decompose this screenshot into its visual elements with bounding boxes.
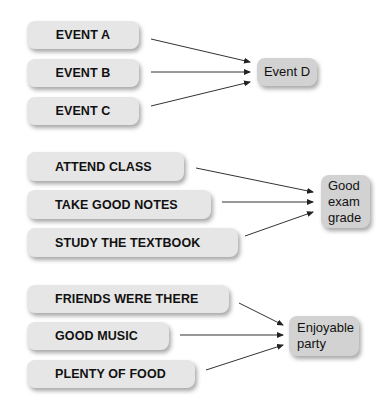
arrow-a-to-d — [151, 39, 250, 62]
effect-label-line: Enjoyable — [297, 320, 354, 336]
cause-box-good-music: GOOD MUSIC — [27, 322, 169, 350]
cause-label: EVENT A — [56, 28, 110, 42]
cause-box-plenty-of-food: PLENTY OF FOOD — [27, 360, 195, 388]
cause-box-event-c: EVENT C — [27, 97, 139, 125]
effect-label-line: party — [297, 336, 326, 352]
arrow-attend-to-grade — [196, 168, 313, 192]
arrow-friends-to-party — [239, 303, 283, 325]
cause-label: STUDY THE TEXTBOOK — [55, 236, 200, 250]
cause-box-study-textbook: STUDY THE TEXTBOOK — [27, 228, 238, 257]
cause-box-event-b: EVENT B — [27, 59, 139, 87]
cause-label: FRIENDS WERE THERE — [55, 292, 198, 306]
effect-box-enjoyable-party: Enjoyable party — [289, 316, 359, 356]
arrow-food-to-party — [206, 345, 283, 370]
cause-label: PLENTY OF FOOD — [55, 367, 166, 381]
cause-box-attend-class: ATTEND CLASS — [27, 152, 184, 181]
cause-box-event-a: EVENT A — [27, 21, 139, 49]
arrow-c-to-d — [151, 82, 250, 106]
effect-box-good-exam-grade: Good exam grade — [321, 175, 370, 228]
cause-label: EVENT C — [56, 104, 111, 118]
effect-label-line: grade — [328, 210, 361, 226]
effect-label-line: Good — [328, 178, 360, 194]
effect-label: Event D — [264, 64, 310, 80]
cause-label: GOOD MUSIC — [55, 329, 138, 343]
cause-label: EVENT B — [56, 66, 111, 80]
cause-box-friends-were-there: FRIENDS WERE THERE — [27, 285, 229, 313]
cause-box-take-good-notes: TAKE GOOD NOTES — [27, 190, 211, 219]
cause-label: ATTEND CLASS — [55, 160, 152, 174]
cause-label: TAKE GOOD NOTES — [55, 198, 178, 212]
effect-label-line: exam — [328, 194, 360, 210]
effect-box-event-d: Event D — [257, 58, 317, 86]
arrow-textbook-to-grade — [245, 212, 313, 236]
